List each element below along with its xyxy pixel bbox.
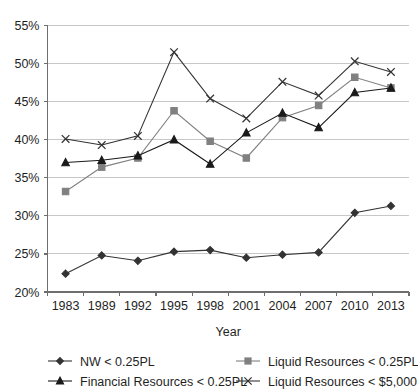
x-axis-tick-label: 1998	[196, 299, 224, 313]
series-diamond	[62, 202, 395, 277]
x-axis-tick-label: 1989	[88, 299, 116, 313]
data-point-diamond	[279, 251, 286, 258]
x-axis-tick-label: 2013	[377, 299, 405, 313]
data-point-cross	[243, 115, 251, 123]
y-axis-tick-label: 50%	[14, 57, 39, 71]
y-axis-tick-label: 40%	[14, 133, 39, 147]
legend-item[interactable]: Financial Resources < 0.25PL	[48, 375, 247, 389]
y-axis-tick-label: 30%	[14, 209, 39, 223]
y-axis-tick-labels: 20%25%30%35%40%45%50%55%	[14, 19, 39, 300]
x-axis-tick-labels: 1983198919921995199820012004200720102013	[52, 299, 405, 313]
line-chart: 20%25%30%35%40%45%50%55% 198319891992199…	[0, 0, 418, 392]
series-layer	[62, 48, 395, 277]
x-axis-title: Year	[216, 325, 241, 339]
x-axis-tick-label: 2004	[269, 299, 297, 313]
x-axis-tick-label: 1983	[52, 299, 80, 313]
data-point-triangle	[243, 129, 251, 136]
y-axis-tick-label: 20%	[14, 286, 39, 300]
chart-canvas: 20%25%30%35%40%45%50%55% 198319891992199…	[0, 0, 418, 392]
data-point-square	[243, 155, 249, 161]
y-axis-tick-label: 35%	[14, 171, 39, 185]
data-point-diamond	[98, 252, 105, 259]
legend-label: Liquid Resources < 0.25PL	[268, 355, 418, 369]
legend-item[interactable]: Liquid Resources < $5,000	[236, 375, 417, 389]
x-axis-tick-label: 2010	[341, 299, 369, 313]
series-line	[66, 52, 391, 145]
series-square	[62, 74, 394, 195]
data-point-square	[207, 138, 213, 144]
y-axis-tick-label: 55%	[14, 19, 39, 33]
series-triangle	[62, 84, 395, 167]
data-point-square	[62, 188, 68, 194]
data-point-cross	[387, 68, 395, 76]
legend-label: Liquid Resources < $5,000	[268, 375, 417, 389]
x-axis-tick-label: 1995	[160, 299, 188, 313]
x-axis-tick-label: 1992	[124, 299, 152, 313]
data-point-diamond	[57, 358, 64, 365]
data-point-square	[171, 108, 177, 114]
legend-label: Financial Resources < 0.25PL	[80, 375, 247, 389]
data-point-cross	[315, 92, 323, 100]
x-axis-tick-label: 2001	[232, 299, 260, 313]
data-point-diamond	[243, 254, 250, 261]
x-axis-tick-label: 2007	[305, 299, 333, 313]
legend-label: NW < 0.25PL	[80, 355, 155, 369]
data-point-square	[352, 74, 358, 80]
data-point-diamond	[207, 247, 214, 254]
data-point-square	[99, 164, 105, 170]
data-point-cross	[279, 78, 287, 86]
data-point-diamond	[387, 202, 394, 209]
legend-item[interactable]: Liquid Resources < 0.25PL	[236, 355, 418, 369]
chart-legend: NW < 0.25PLLiquid Resources < 0.25PLFina…	[48, 355, 418, 389]
data-point-cross	[134, 132, 142, 140]
data-point-square	[315, 102, 321, 108]
y-axis-tick-label: 45%	[14, 95, 39, 109]
series-line	[66, 88, 391, 164]
data-point-diamond	[62, 270, 69, 277]
legend-item[interactable]: NW < 0.25PL	[48, 355, 155, 369]
data-point-diamond	[134, 257, 141, 264]
data-point-cross	[170, 48, 178, 56]
data-point-square	[245, 358, 251, 364]
series-line	[66, 77, 391, 191]
data-point-triangle	[279, 109, 287, 116]
y-axis-tick-label: 25%	[14, 247, 39, 261]
